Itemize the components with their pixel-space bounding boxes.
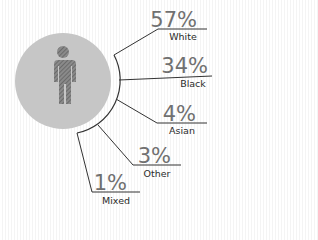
ethnicity-chart: 57% White 34% Black 4% Asian 3% Other 1%…	[0, 0, 222, 219]
label-other: 3% Other	[138, 144, 171, 179]
value-asian: 4%	[163, 102, 196, 126]
name-other: Other	[144, 168, 171, 179]
label-asian: 4% Asian	[163, 102, 196, 136]
value-black: 34%	[161, 54, 208, 78]
name-mixed: Mixed	[102, 195, 130, 206]
label-mixed: 1% Mixed	[94, 171, 130, 206]
value-other: 3%	[138, 144, 171, 168]
value-mixed: 1%	[94, 171, 127, 195]
name-black: Black	[180, 78, 206, 89]
value-white: 57%	[150, 8, 197, 32]
label-black: 34% Black	[161, 54, 208, 89]
name-white: White	[169, 31, 197, 42]
name-asian: Asian	[169, 125, 195, 136]
label-white: 57% White	[150, 8, 197, 42]
